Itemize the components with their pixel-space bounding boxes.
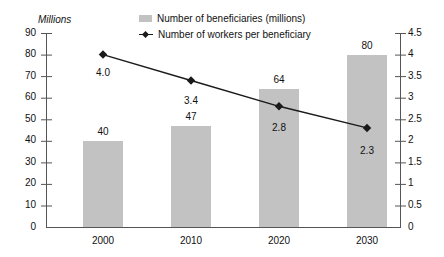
right-tick-1-5: 1.5 bbox=[408, 156, 422, 167]
legend-label-workers: Number of workers per beneficiary bbox=[158, 29, 311, 40]
left-tick-40: 40 bbox=[6, 134, 36, 145]
legend-label-beneficiaries: Number of beneficiaries (millions) bbox=[157, 13, 305, 24]
left-tick-10: 10 bbox=[6, 199, 36, 210]
workers-per-beneficiary-line bbox=[103, 55, 367, 128]
workers-per-beneficiary-markers bbox=[99, 50, 371, 132]
left-axis-ticks bbox=[41, 34, 52, 207]
bar-value-2010: 47 bbox=[171, 111, 211, 122]
point-value-2030: 2.3 bbox=[347, 145, 387, 156]
point-value-2020: 2.8 bbox=[259, 122, 299, 133]
bar-value-2000: 40 bbox=[83, 126, 123, 137]
right-tick-0: 0 bbox=[408, 221, 414, 232]
right-tick-4: 4 bbox=[408, 48, 414, 59]
right-tick-2-5: 2.5 bbox=[408, 113, 422, 124]
left-tick-30: 30 bbox=[6, 156, 36, 167]
point-value-2000: 4.0 bbox=[83, 67, 123, 78]
right-tick-2: 2 bbox=[408, 134, 414, 145]
chart-figure: Millions Number of beneficiaries (millio… bbox=[0, 0, 444, 257]
bar-2000 bbox=[83, 141, 123, 227]
x-label-2020: 2020 bbox=[249, 235, 309, 246]
legend-item-workers: Number of workers per beneficiary bbox=[139, 29, 311, 40]
left-tick-20: 20 bbox=[6, 177, 36, 188]
left-tick-70: 70 bbox=[6, 70, 36, 81]
chart-legend: Number of beneficiaries (millions) Numbe… bbox=[139, 13, 311, 40]
x-label-2010: 2010 bbox=[161, 235, 221, 246]
right-tick-4-5: 4.5 bbox=[408, 27, 422, 38]
bar-2020 bbox=[259, 89, 299, 227]
legend-swatch-icon bbox=[139, 15, 152, 22]
left-tick-50: 50 bbox=[6, 113, 36, 124]
right-tick-3-5: 3.5 bbox=[408, 70, 422, 81]
left-axis-title: Millions bbox=[38, 14, 71, 25]
x-label-2000: 2000 bbox=[73, 235, 133, 246]
right-tick-3: 3 bbox=[408, 91, 414, 102]
bar-2030 bbox=[347, 55, 387, 227]
left-tick-80: 80 bbox=[6, 48, 36, 59]
right-axis-ticks bbox=[395, 34, 406, 207]
legend-line-diamond-icon bbox=[139, 30, 153, 39]
bar-value-2030: 80 bbox=[347, 40, 387, 51]
left-tick-0: 0 bbox=[6, 221, 36, 232]
right-tick-1: 1 bbox=[408, 177, 414, 188]
legend-item-beneficiaries: Number of beneficiaries (millions) bbox=[139, 13, 311, 24]
bar-value-2020: 64 bbox=[259, 74, 299, 85]
right-tick-0-5: 0.5 bbox=[408, 199, 422, 210]
x-label-2030: 2030 bbox=[337, 235, 397, 246]
point-value-2010: 3.4 bbox=[171, 95, 211, 106]
left-tick-60: 60 bbox=[6, 91, 36, 102]
left-tick-90: 90 bbox=[6, 27, 36, 38]
bar-2010 bbox=[171, 126, 211, 227]
